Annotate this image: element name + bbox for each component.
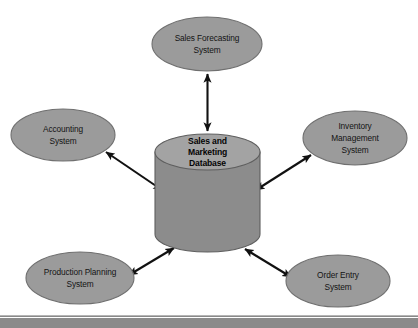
link-accounting-to-database	[106, 152, 162, 190]
database-label-line-1: Sales and	[188, 136, 227, 146]
production-planning-system-shape	[26, 252, 134, 304]
accounting-system-shape	[11, 109, 115, 161]
database-label-line-3: Database	[189, 158, 226, 168]
accounting-system-label-line-1: Accounting	[43, 124, 84, 134]
order-entry-system-label-line-2: System	[324, 282, 351, 292]
diagram-svg: Sales and Marketing Database Sales Forec…	[0, 0, 418, 328]
production-planning-system[interactable]: Production Planning System	[26, 252, 134, 304]
footer-band-rule	[0, 316, 418, 317]
link-inventory-to-database	[256, 155, 311, 190]
inventory-management-system-label-line-1: Inventory	[338, 121, 372, 131]
accounting-system[interactable]: Accounting System	[11, 109, 115, 161]
inventory-management-system[interactable]: Inventory Management System	[303, 111, 407, 165]
link-production-to-database	[129, 248, 174, 275]
production-planning-system-label-line-2: System	[66, 279, 93, 289]
inventory-management-system-label-line-2: Management	[331, 133, 379, 143]
sales-forecasting-system-label-line-2: System	[193, 45, 220, 55]
inventory-management-system-label-line-3: System	[341, 145, 368, 155]
order-entry-system-shape	[286, 255, 390, 307]
sales-forecasting-system-label-line-1: Sales Forecasting	[175, 33, 240, 43]
accounting-system-label-line-2: System	[49, 136, 76, 146]
footer-band	[0, 316, 418, 328]
order-entry-system[interactable]: Order Entry System	[286, 255, 390, 307]
production-planning-system-label-line-1: Production Planning	[44, 267, 117, 277]
sales-forecasting-system[interactable]: Sales Forecasting System	[152, 17, 262, 71]
diagram-canvas: Sales and Marketing Database Sales Forec…	[0, 0, 418, 328]
database-label-line-2: Marketing	[188, 147, 227, 157]
footer-band-fill	[0, 318, 418, 328]
sales-marketing-database[interactable]: Sales and Marketing Database	[155, 134, 260, 252]
sales-forecasting-system-shape	[152, 17, 262, 71]
link-order-entry-to-database	[245, 249, 291, 277]
order-entry-system-label-line-1: Order Entry	[317, 270, 360, 280]
